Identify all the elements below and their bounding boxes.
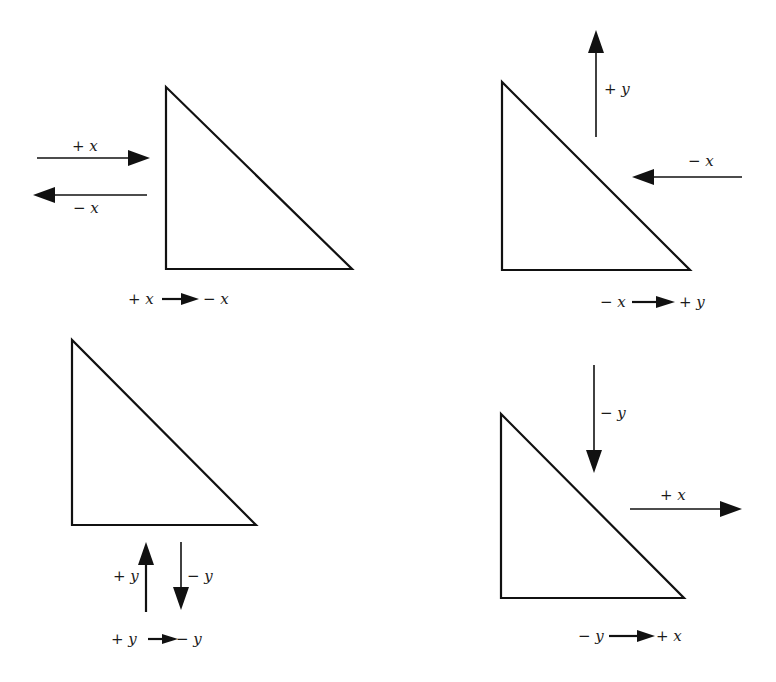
caption-to: + y [679,293,705,311]
caption-arrow-icon [162,293,199,305]
arrow-label: − y [187,567,213,585]
arrow-label: − x [73,199,99,217]
panel-top-left: + x − x + x − x [33,87,352,308]
panel-top-right: + y − x − x + y [502,30,742,311]
panel-bottom-left: + y − y + y − y [72,340,256,648]
arrow-label: − x [688,152,714,170]
arrow-label: + y [113,567,139,585]
arrow-up-icon [588,30,604,137]
caption-arrow-icon [148,634,178,644]
arrow-left-icon [632,169,742,185]
arrow-label: − y [600,404,626,422]
caption-to: − x [203,290,229,308]
caption-from: − y [578,627,604,645]
right-triangle [72,340,256,525]
caption-from: + y [111,630,137,648]
right-triangle [166,87,352,269]
caption-arrow-icon [632,296,675,308]
caption-to: + x [656,627,682,645]
arrow-right-icon [630,501,742,517]
caption-arrow-icon [609,630,655,642]
arrow-label: + x [660,486,686,504]
arrow-label: + y [604,80,630,98]
arrow-label: + x [72,137,98,155]
reflection-diagram: + x − x + x − x + y − x − x [0,0,776,682]
panel-bottom-right: − y + x − y + x [501,365,742,645]
caption-from: − x [600,293,626,311]
right-triangle [501,414,684,598]
caption-to: − y [176,630,202,648]
arrow-up-icon [138,542,154,612]
caption-from: + x [128,290,154,308]
